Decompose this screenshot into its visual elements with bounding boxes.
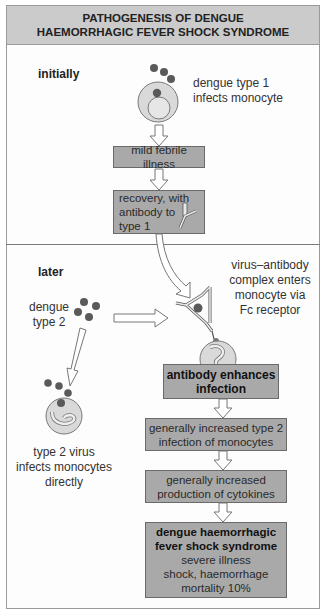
title-line-1: PATHOGENESIS OF DENGUE bbox=[37, 11, 289, 25]
monocyte-type2-direct-icon bbox=[42, 378, 92, 436]
section-label-initially: initially bbox=[38, 67, 79, 82]
arrow-down-icon bbox=[213, 451, 233, 471]
box-dengue-haemorrhagic-fever-shock-syndrome: dengue haemorrhagic fever shock syndrome… bbox=[145, 522, 287, 598]
infection-caption-type1: dengue type 1 infects monocyte bbox=[193, 76, 283, 106]
title-line-2: HAEMORRHAGIC FEVER SHOCK SYNDROME bbox=[37, 25, 289, 39]
section-label-later: later bbox=[38, 265, 63, 280]
box-mild-febrile-illness: mild febrile illness bbox=[113, 146, 205, 168]
antibody-icon bbox=[176, 202, 202, 232]
arrow-down-icon bbox=[149, 169, 169, 191]
arrow-down-icon bbox=[213, 503, 233, 523]
arrow-down-icon bbox=[213, 399, 233, 419]
virus-antibody-complex-icon bbox=[172, 283, 244, 373]
monocyte-type1-icon bbox=[130, 62, 190, 124]
virus-caption-type2: dengue type 2 bbox=[24, 300, 74, 330]
box-antibody-enhances-infection: antibody enhances infection bbox=[163, 364, 279, 399]
dengue-type2-virus-icon bbox=[72, 298, 102, 326]
diagram-title: PATHOGENESIS OF DENGUE HAEMORRHAGIC FEVE… bbox=[6, 5, 320, 45]
arrow-right-icon bbox=[113, 308, 169, 328]
box-increased-type2-infection: generally increased type 2 infection of … bbox=[145, 418, 287, 451]
box-increased-cytokines: generally increased production of cytoki… bbox=[145, 470, 287, 503]
direct-infection-caption: type 2 virus infects monocytes directly bbox=[14, 445, 114, 490]
